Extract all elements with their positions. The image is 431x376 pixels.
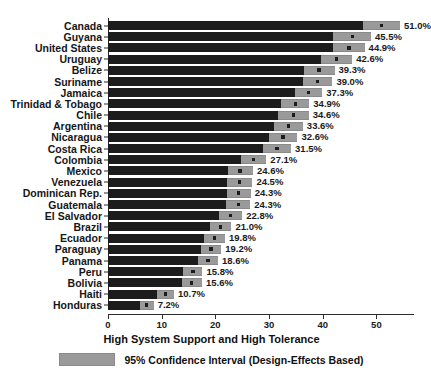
bar-row: Venezuela24.5% [108,177,414,188]
point-estimate-marker [287,124,290,128]
bar-fill [108,278,182,287]
point-estimate-marker [317,68,320,72]
point-estimate-marker [316,80,319,84]
value-label: 24.5% [256,177,283,187]
value-label: 45.5% [375,32,402,42]
category-label: Costa Rica [48,143,102,154]
bar-fill [108,133,269,142]
point-estimate-marker [213,236,216,240]
x-axis-tick-label: 10 [156,320,167,330]
category-label: Jamaica [61,87,102,98]
point-estimate-marker [229,214,232,218]
category-label: Bolivia [68,278,102,289]
value-label: 32.6% [302,133,329,143]
bar-row: United States44.9% [108,42,414,53]
value-label: 24.6% [257,166,284,176]
value-label: 19.8% [229,233,256,243]
plot-area: Canada51.0%Guyana45.5%United States44.9%… [108,20,414,305]
bar-row: El Salvador22.8% [108,210,414,221]
bar-fill [108,256,198,265]
bar-row: Chile34.6% [108,110,414,121]
bar-fill [108,200,226,209]
value-label: 34.9% [313,99,340,109]
bar-row: Paraguay19.2% [108,244,414,255]
bar-fill [108,267,183,276]
value-label: 51.0% [404,21,431,31]
category-label: Argentina [53,121,102,132]
value-label: 33.6% [307,122,334,132]
point-estimate-marker [145,303,148,307]
value-label: 19.2% [225,245,252,255]
value-label: 31.5% [295,144,322,154]
category-label: Chile [76,110,102,121]
bar-row: Jamaica37.3% [108,87,414,98]
point-estimate-marker [252,158,255,162]
point-estimate-marker [219,225,222,229]
bar-fill [108,178,227,187]
bar-row: Costa Rica31.5% [108,143,414,154]
bar-fill [108,211,219,220]
value-label: 24.3% [254,200,281,210]
x-axis-title: High System Support and High Tolerance [0,333,423,345]
category-label: Panama [62,255,102,266]
bar-fill [108,122,274,131]
point-estimate-marker [191,270,194,274]
x-axis-tick-label: 50 [371,320,382,330]
category-label: El Salvador [45,211,102,222]
bar-row: Nicaragua32.6% [108,132,414,143]
point-estimate-marker [238,180,241,184]
value-label: 22.8% [246,211,273,221]
category-label: Honduras [53,300,102,311]
point-estimate-marker [275,147,278,151]
bar-fill [108,55,321,64]
point-estimate-marker [209,247,212,251]
point-estimate-marker [380,24,383,28]
bar-fill [108,99,281,108]
legend-swatch-confidence-interval [59,353,115,366]
point-estimate-marker [351,35,354,39]
category-label: Trinidad & Tobago [11,99,102,110]
bar-fill [108,66,304,75]
bar-fill [108,43,333,52]
bar-row: Ecuador19.8% [108,233,414,244]
x-axis-tick-label: 30 [264,320,275,330]
category-label: Guatemala [48,199,102,210]
bar-row: Canada51.0% [108,20,414,31]
point-estimate-marker [292,113,295,117]
value-label: 15.6% [206,278,233,288]
category-label: Colombia [54,155,102,166]
value-label: 44.9% [369,43,396,53]
category-label: Canada [64,20,102,31]
category-label: Venezuela [51,177,102,188]
bar-fill [108,222,210,231]
value-label: 42.6% [356,54,383,64]
bar-fill [108,245,201,254]
bar-row: Brazil21.0% [108,221,414,232]
point-estimate-marker [294,102,297,106]
x-axis-tick-label: 40 [317,320,328,330]
point-estimate-marker [237,191,240,195]
value-label: 39.3% [339,66,366,76]
point-estimate-marker [237,203,240,207]
value-label: 39.0% [336,77,363,87]
value-label: 37.3% [326,88,353,98]
bar-row: Haiti10.7% [108,289,414,300]
category-label: Belize [72,65,102,76]
bar-fill [108,166,228,175]
bar-fill [108,290,157,299]
bar-row: Guyana45.5% [108,31,414,42]
bar-rows: Canada51.0%Guyana45.5%United States44.9%… [108,20,414,311]
bar-row: Bolivia15.6% [108,277,414,288]
legend-label-confidence-interval: 95% Confidence Interval (Design-Effects … [124,354,363,366]
bar-row: Suriname39.0% [108,76,414,87]
category-label: Guyana [63,32,102,43]
point-estimate-marker [206,259,209,263]
point-estimate-marker [238,169,241,173]
category-label: Mexico [66,166,102,177]
value-label: 21.0% [235,222,262,232]
category-label: Peru [79,266,102,277]
point-estimate-marker [307,91,310,95]
value-label: 27.1% [270,155,297,165]
point-estimate-marker [190,281,193,285]
